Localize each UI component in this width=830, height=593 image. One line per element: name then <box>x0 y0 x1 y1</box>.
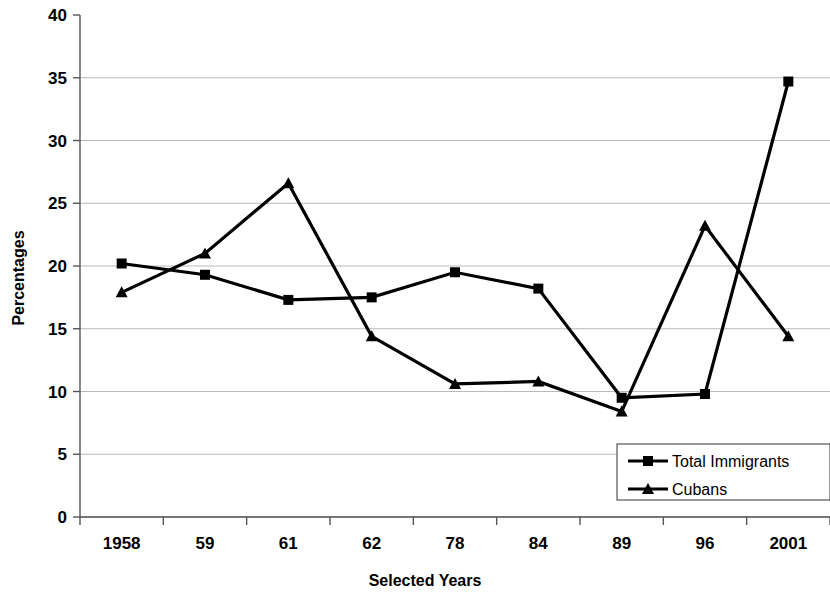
y-tick-label: 35 <box>48 69 67 88</box>
data-point-marker <box>283 295 293 305</box>
chart-canvas: 0510152025303540 1958596162788489962001 … <box>0 0 830 593</box>
chart-legend: Total ImmigrantsCubans <box>617 444 830 500</box>
line-chart: 0510152025303540 1958596162788489962001 … <box>0 0 830 593</box>
data-point-marker <box>700 389 710 399</box>
legend-label: Cubans <box>672 481 727 498</box>
x-tick-label: 2001 <box>769 534 807 553</box>
legend-label: Total Immigrants <box>672 453 789 470</box>
data-point-marker <box>367 292 377 302</box>
y-tick-label: 25 <box>48 194 67 213</box>
x-tick-label: 59 <box>196 534 215 553</box>
x-tick-label: 78 <box>446 534 465 553</box>
y-tick-label: 20 <box>48 257 67 276</box>
x-tick-label: 89 <box>612 534 631 553</box>
x-tick-label: 62 <box>362 534 381 553</box>
y-tick-label: 5 <box>58 445 67 464</box>
y-tick-label: 0 <box>58 508 67 527</box>
data-point-marker <box>783 77 793 87</box>
data-point-marker <box>200 270 210 280</box>
data-point-marker <box>117 258 127 268</box>
x-tick-label: 1958 <box>103 534 141 553</box>
x-axis-title: Selected Years <box>369 572 482 589</box>
x-tick-label: 61 <box>279 534 298 553</box>
legend-marker <box>643 456 653 466</box>
y-tick-label: 15 <box>48 320 67 339</box>
x-tick-label: 84 <box>529 534 548 553</box>
y-tick-label: 30 <box>48 132 67 151</box>
x-axis-tick-labels: 1958596162788489962001 <box>103 534 807 553</box>
x-tick-label: 96 <box>696 534 715 553</box>
y-tick-label: 10 <box>48 383 67 402</box>
data-point-marker <box>533 284 543 294</box>
y-tick-label: 40 <box>48 6 67 25</box>
y-axis-title: Percentages <box>10 230 27 325</box>
data-point-marker <box>450 267 460 277</box>
